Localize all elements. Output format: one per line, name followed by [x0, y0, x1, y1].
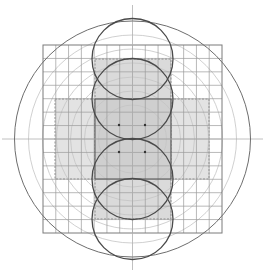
center-dot	[118, 151, 120, 153]
geometry-diagram	[0, 0, 270, 273]
center-dot	[144, 151, 146, 153]
diagram-canvas	[0, 0, 270, 273]
center-dot	[144, 124, 146, 126]
axes	[2, 5, 263, 270]
center-dot	[118, 124, 120, 126]
